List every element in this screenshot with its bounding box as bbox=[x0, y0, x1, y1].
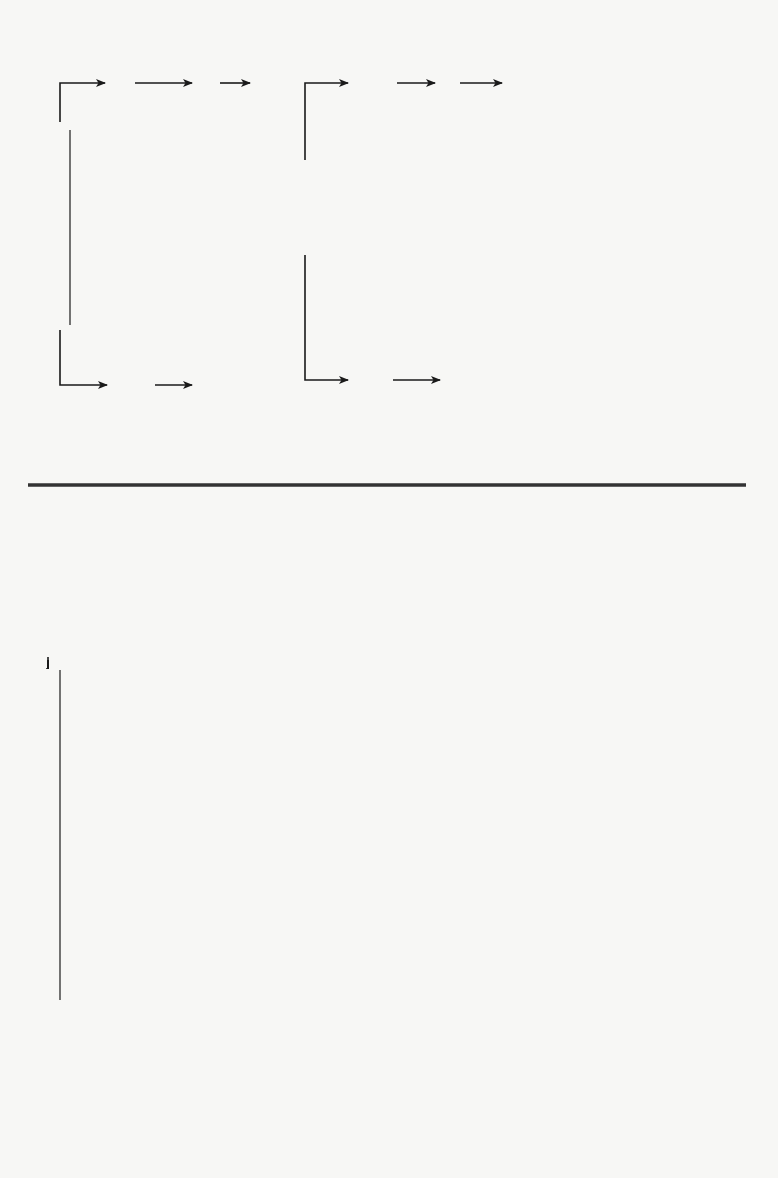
flow-diagram bbox=[0, 0, 778, 1178]
connector-lines bbox=[0, 0, 778, 1178]
